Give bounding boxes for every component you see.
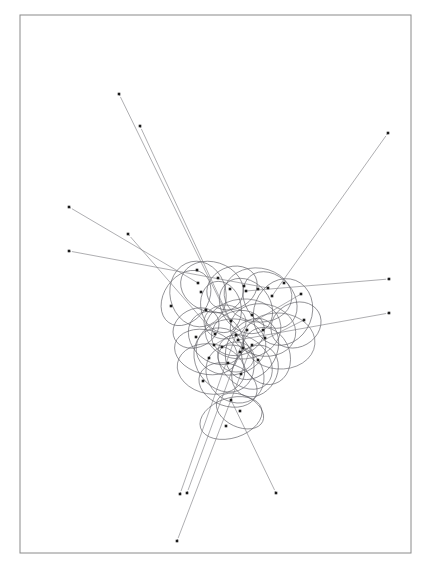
cluster-node-marker-20: [251, 344, 254, 347]
endpoint-marker-e7-6: [388, 278, 391, 281]
diagram-canvas: [0, 0, 428, 566]
endpoint-marker-e11-10: [275, 492, 278, 495]
endpoint-marker-e6-5: [68, 250, 71, 253]
endpoint-marker-e9-8: [179, 493, 182, 496]
cluster-node-marker-11: [230, 320, 233, 323]
cluster-node-marker-3: [200, 291, 203, 294]
cluster-node-marker-5: [257, 288, 260, 291]
canvas-background: [0, 0, 428, 566]
cluster-node-marker-0: [196, 269, 199, 272]
cluster-node-marker-15: [237, 339, 240, 342]
cluster-node-marker-13: [303, 319, 306, 322]
cluster-node-marker-22: [246, 329, 249, 332]
cluster-node-marker-12: [300, 293, 303, 296]
cluster-node-marker-10: [251, 314, 254, 317]
endpoint-marker-e12-11: [176, 540, 179, 543]
figure-root: Abstract Node-Ellipse Diagram: [0, 0, 428, 566]
cluster-node-marker-35: [202, 380, 205, 383]
cluster-node-marker-27: [213, 344, 216, 347]
endpoint-marker-e4-3: [68, 206, 71, 209]
cluster-node-marker-16: [264, 337, 267, 340]
cluster-node-marker-25: [257, 359, 260, 362]
cluster-node-marker-1: [217, 277, 220, 280]
cluster-node-marker-36: [262, 329, 265, 332]
cluster-node-marker-32: [230, 399, 233, 402]
cluster-node-marker-29: [197, 282, 200, 285]
endpoint-marker-e8-7: [388, 312, 391, 315]
cluster-node-marker-8: [170, 305, 173, 308]
cluster-node-marker-31: [267, 287, 270, 290]
cluster-node-marker-34: [225, 425, 228, 428]
cluster-node-marker-9: [205, 309, 208, 312]
cluster-node-marker-24: [227, 362, 230, 365]
endpoint-marker-e1-0: [118, 93, 121, 96]
cluster-node-marker-21: [235, 334, 238, 337]
endpoint-marker-e5-4: [127, 233, 130, 236]
cluster-node-marker-28: [239, 351, 242, 354]
endpoint-marker-e2-1: [139, 125, 142, 128]
cluster-node-marker-4: [243, 285, 246, 288]
cluster-node-marker-33: [239, 410, 242, 413]
cluster-node-marker-7: [283, 282, 286, 285]
cluster-node-marker-6: [271, 295, 274, 298]
endpoint-marker-e10-9: [186, 492, 189, 495]
cluster-node-marker-18: [221, 346, 224, 349]
cluster-node-marker-17: [195, 336, 198, 339]
cluster-node-marker-2: [229, 288, 232, 291]
cluster-node-marker-19: [242, 347, 245, 350]
cluster-node-marker-23: [208, 357, 211, 360]
cluster-node-marker-14: [214, 333, 217, 336]
cluster-node-marker-26: [240, 373, 243, 376]
endpoint-marker-e3-2: [387, 132, 390, 135]
cluster-node-marker-30: [245, 290, 248, 293]
